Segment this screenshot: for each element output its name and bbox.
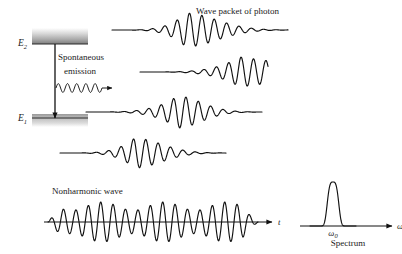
energy-band-lower <box>32 114 88 127</box>
frequency-axis-label: ω <box>397 221 402 231</box>
spontaneous-emission-label-line2: emission <box>64 66 97 76</box>
spectrum-caption: Spectrum <box>331 238 366 248</box>
wave-packet-title: Wave packet of photon <box>196 6 279 16</box>
spontaneous-emission-label-line1: Spontaneous <box>58 52 104 62</box>
spontaneous-emission-figure: E2 E1 Spontaneous emission Wave packet o… <box>0 0 402 254</box>
nonharmonic-wave-title: Nonharmonic wave <box>52 186 123 196</box>
energy-band-upper <box>32 28 88 44</box>
